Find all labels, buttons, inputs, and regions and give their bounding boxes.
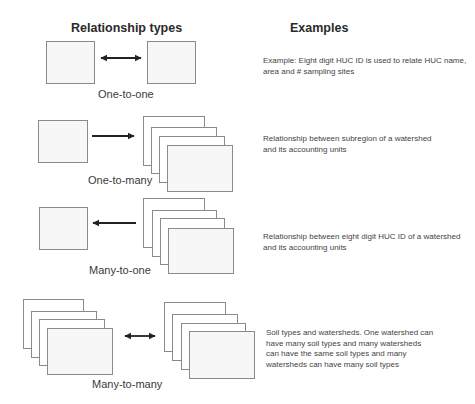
one-to-many-label: One-to-many <box>88 174 152 186</box>
relationship-types-heading: Relationship types <box>71 21 182 35</box>
many-to-many-label: Many-to-many <box>92 378 162 390</box>
one-to-one-example: Example: Eight digit HUC ID is used to r… <box>263 56 473 77</box>
entity-box <box>47 42 95 84</box>
one-to-one-diagram <box>47 42 196 84</box>
entity-stack <box>144 117 233 192</box>
one-to-many-example: Relationship between subregion of a wate… <box>263 134 433 155</box>
entity-stack <box>24 300 113 375</box>
relationship-types-diagram: Relationship types Examples One-to-one O… <box>0 0 475 404</box>
entity-box <box>39 121 88 163</box>
many-to-one-example: Relationship between eight digit HUC ID … <box>263 232 473 253</box>
one-to-one-label: One-to-one <box>98 88 154 100</box>
many-to-one-label: Many-to-one <box>89 264 151 276</box>
entity-stack <box>144 199 234 274</box>
many-to-many-diagram <box>24 300 255 379</box>
entity-stack <box>165 303 255 379</box>
examples-heading: Examples <box>290 21 348 35</box>
many-to-many-example: Soil types and watersheds. One watershed… <box>266 328 436 370</box>
many-to-one-diagram <box>40 199 234 274</box>
entity-box <box>40 208 88 250</box>
entity-box <box>148 42 196 84</box>
